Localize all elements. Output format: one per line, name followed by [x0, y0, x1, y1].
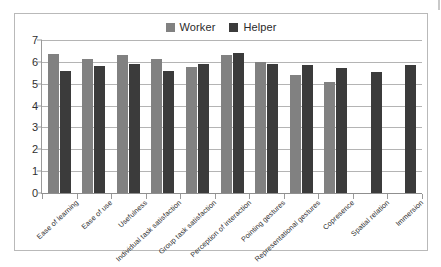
x-axis-label: Ease of use — [79, 198, 114, 231]
bar-worker — [186, 67, 197, 193]
bar-group — [146, 40, 181, 193]
y-tick-mark — [37, 40, 42, 41]
y-tick-mark — [37, 61, 42, 62]
bar-helper — [163, 71, 174, 193]
x-axis-label: Individual task satisfaction — [114, 198, 183, 263]
y-tick-mark — [37, 83, 42, 84]
bar-helper — [198, 64, 209, 193]
bar-helper — [94, 66, 105, 193]
bar-group — [42, 40, 77, 193]
bar-worker — [221, 55, 232, 193]
legend-swatch-helper — [229, 23, 238, 32]
bar-helper — [233, 53, 244, 193]
x-axis-label: Ease of learning — [35, 198, 80, 241]
y-tick-mark — [37, 171, 42, 172]
legend-item-worker: Worker — [166, 21, 216, 33]
bar-worker — [255, 62, 266, 193]
bar-worker — [290, 75, 301, 193]
bar-worker — [151, 59, 162, 193]
bar-group — [77, 40, 112, 193]
bar-helper — [60, 71, 71, 193]
y-tick-mark — [37, 127, 42, 128]
x-axis-labels: Ease of learningEase of useUsefulnessInd… — [42, 198, 428, 252]
bar-helper — [371, 72, 382, 193]
chart-legend: Worker Helper — [15, 21, 427, 33]
legend-item-helper: Helper — [229, 21, 276, 33]
x-axis-label: Representational gestures — [253, 198, 322, 264]
bar-helper — [129, 64, 140, 193]
bar-worker — [48, 54, 59, 193]
bar-worker — [117, 55, 128, 193]
bar-group — [284, 40, 319, 193]
bar-group — [180, 40, 215, 193]
legend-swatch-worker — [166, 23, 175, 32]
x-axis-label: Usefulness — [116, 198, 149, 230]
bars-layer — [42, 40, 422, 193]
bar-worker — [324, 82, 335, 193]
bar-worker — [82, 59, 93, 193]
bar-group — [387, 40, 422, 193]
bar-helper — [405, 65, 416, 193]
x-axis-label: Perception of interaction — [188, 198, 253, 259]
bar-group — [111, 40, 146, 193]
page-edge-mark — [438, 0, 440, 10]
plot-region: 01234567 Ease of learningEase of useUsef… — [15, 40, 429, 252]
bar-group — [318, 40, 353, 193]
bar-helper — [336, 68, 347, 193]
x-axis-label: Immersion — [394, 198, 425, 228]
bar-group — [353, 40, 388, 193]
plot-area — [42, 40, 422, 194]
legend-label-helper: Helper — [243, 21, 276, 33]
y-tick-mark — [37, 105, 42, 106]
y-tick-mark — [37, 149, 42, 150]
y-tick-mark — [37, 193, 42, 194]
x-axis-label: Copresence — [321, 198, 356, 232]
bar-helper — [302, 65, 313, 193]
bar-group — [215, 40, 250, 193]
bar-helper — [267, 64, 278, 193]
bar-group — [249, 40, 284, 193]
legend-label-worker: Worker — [180, 21, 216, 33]
chart-figure-frame: Worker Helper 01234567 Ease of learningE… — [14, 13, 428, 251]
